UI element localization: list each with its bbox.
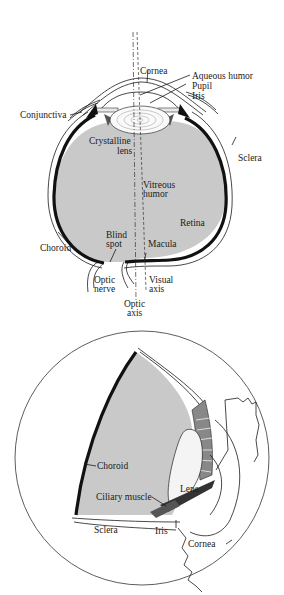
- label-macula: Macula: [148, 239, 177, 249]
- label-aqueous-humor: Aqueous humor: [192, 71, 254, 81]
- label-choroid-bottom: Choroid: [97, 461, 128, 471]
- crystalline-lens: [110, 106, 170, 134]
- label-iris-bottom: Iris: [155, 526, 168, 536]
- label-pupil: Pupil: [192, 81, 212, 91]
- label-sclera: Sclera: [238, 153, 263, 163]
- label-visual-axis-2: axis: [149, 284, 165, 294]
- ciliary-body-right: [178, 104, 190, 118]
- sclera-flap-bottom: [178, 528, 202, 592]
- label-optic-axis-2: axis: [127, 308, 143, 318]
- label-cornea-bottom: Cornea: [188, 539, 216, 549]
- label-optic-nerve-2: nerve: [94, 284, 115, 294]
- iris-left: [96, 108, 118, 112]
- label-cornea: Cornea: [140, 66, 168, 76]
- label-vitreous-humor-2: humor: [143, 189, 169, 199]
- label-sclera-bottom: Sclera: [94, 525, 119, 535]
- label-choroid: Choroid: [40, 243, 71, 253]
- label-blind-spot-2: spot: [106, 239, 122, 249]
- eyeball-cutaway: Choroid Ciliary muscle Lens Sclera Iris …: [15, 331, 269, 592]
- label-crystalline-lens-1: Crystalline: [89, 136, 131, 146]
- label-ciliary-muscle: Ciliary muscle: [96, 492, 152, 502]
- sclera-flap: [225, 398, 259, 462]
- label-conjunctiva: Conjunctiva: [20, 110, 67, 120]
- eye-anatomy-diagram: Cornea Aqueous humor Pupil Iris Conjunct…: [0, 0, 284, 595]
- label-crystalline-lens-2: lens: [117, 146, 133, 156]
- label-lens: Lens: [180, 484, 199, 494]
- vitreous-body: [54, 122, 226, 262]
- label-retina: Retina: [180, 218, 206, 228]
- eye-cross-section: Cornea Aqueous humor Pupil Iris Conjunct…: [20, 32, 263, 318]
- label-iris: Iris: [192, 91, 205, 101]
